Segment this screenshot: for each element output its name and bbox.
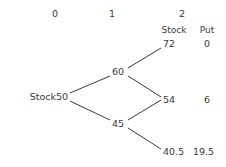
node-uu-stock: 72 (163, 39, 175, 49)
column-subheader-stock: Stock (162, 26, 187, 35)
period-header-1: 1 (109, 9, 115, 19)
binomial-tree-figure: 0 1 2 Stock Put Stock 50 60 45 72 0 54 6… (0, 0, 226, 167)
node-down-stock: 45 (112, 119, 124, 129)
edge-down-ud (128, 100, 161, 120)
root-row-label: Stock (30, 92, 56, 102)
edge-up-uu (128, 48, 161, 68)
node-dd-stock: 40.5 (163, 147, 184, 157)
node-ud-stock: 54 (163, 95, 175, 105)
node-root-stock: 50 (56, 92, 68, 102)
node-up-stock: 60 (112, 67, 124, 77)
edge-root-down (70, 101, 110, 120)
tree-edges (0, 0, 226, 167)
period-header-0: 0 (52, 9, 58, 19)
edge-root-up (70, 76, 110, 93)
period-header-2: 2 (179, 9, 185, 19)
edge-up-ud (128, 76, 161, 97)
node-dd-put: 19.5 (193, 147, 214, 157)
node-ud-put: 6 (204, 95, 210, 105)
node-uu-put: 0 (204, 39, 210, 49)
column-subheader-put: Put (200, 26, 215, 35)
edge-down-dd (128, 128, 161, 149)
